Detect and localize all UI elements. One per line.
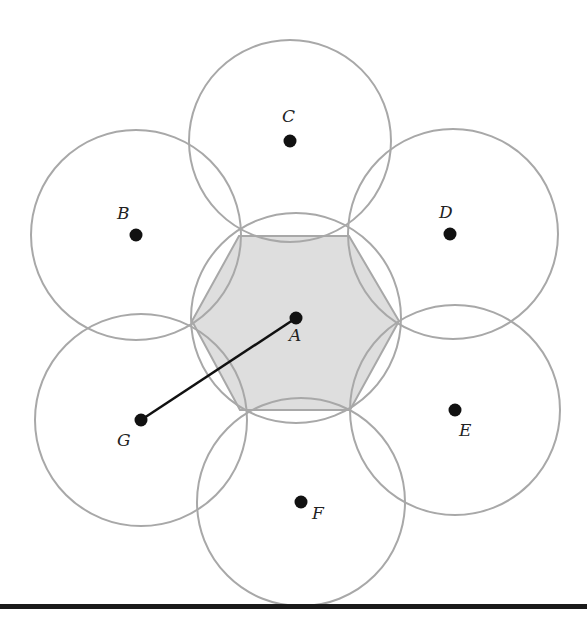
bottom-rule: [0, 604, 587, 609]
label-g: G: [117, 432, 131, 449]
label-d: D: [439, 204, 453, 221]
diagram-canvas: A B C D E F G: [0, 0, 587, 625]
point-g: [135, 414, 148, 427]
point-c: [284, 135, 297, 148]
point-a: [290, 312, 303, 325]
label-a: A: [289, 327, 301, 344]
label-e: E: [459, 422, 471, 439]
circle-diagram: [0, 0, 587, 625]
point-e: [449, 404, 462, 417]
point-b: [130, 229, 143, 242]
point-f: [295, 496, 308, 509]
label-c: C: [282, 108, 295, 125]
point-d: [444, 228, 457, 241]
label-b: B: [117, 205, 130, 222]
label-f: F: [312, 505, 324, 522]
